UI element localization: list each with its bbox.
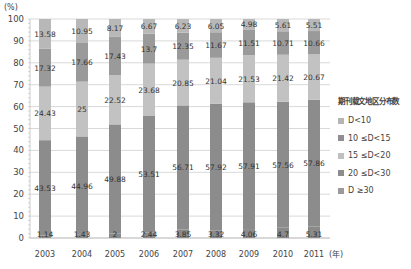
data-label: 3.85: [175, 230, 192, 239]
y-tick-label: 80: [13, 58, 24, 68]
data-label: 57.91: [238, 162, 260, 171]
x-tick-label: 2006: [139, 250, 159, 259]
data-label: 4.06: [241, 230, 258, 239]
data-label: 56.71: [172, 163, 194, 172]
data-label: 17.66: [71, 58, 93, 67]
data-label: 49.88: [104, 175, 126, 184]
legend-title: 期刊载文地区分布数: [338, 95, 399, 106]
data-label: 13.58: [34, 30, 56, 39]
x-tick-label: 2010: [273, 250, 293, 259]
y-tick-label: 30: [13, 167, 24, 177]
legend-swatch: [338, 118, 344, 124]
data-label: 24.43: [34, 109, 56, 118]
data-label: 4.7: [277, 230, 289, 239]
data-label: 6.23: [175, 22, 192, 31]
data-label: 4.98: [241, 20, 258, 29]
y-tick-label: 60: [13, 102, 24, 112]
data-label: 21.42: [272, 74, 294, 83]
data-label: 10.95: [71, 27, 93, 36]
data-label: 5.51: [306, 21, 323, 30]
y-tick-label: 70: [13, 80, 24, 90]
legend-item-15-20: 15 ≤D<20: [338, 147, 399, 165]
data-label: 21.53: [238, 75, 260, 84]
data-label: 17.32: [34, 64, 56, 73]
data-label: 1.14: [37, 230, 54, 239]
y-tick-label: 90: [13, 36, 24, 46]
x-tick-label: 2009: [239, 250, 259, 259]
data-label: 44.96: [71, 182, 93, 191]
legend-item-20-30: 20 ≤D<30: [338, 165, 399, 183]
data-label: 22.52: [104, 96, 126, 105]
legend-item-d-lt-10: D<10: [338, 112, 399, 130]
data-label: 6.05: [208, 22, 225, 31]
data-label: 2.44: [141, 230, 158, 239]
data-label: 6.67: [141, 22, 158, 31]
legend-swatch: [338, 135, 344, 141]
x-tick-label: 2011: [304, 250, 324, 259]
data-label: 23.68: [138, 86, 160, 95]
y-tick-label: 100: [8, 14, 24, 24]
data-label: 53.51: [138, 170, 160, 179]
legend-swatch: [338, 153, 344, 159]
x-tick-label: 2004: [72, 250, 92, 259]
legend-item-d-ge-30: D ≥30: [338, 182, 399, 200]
y-tick-label: 20: [13, 189, 24, 199]
data-label: 1.43: [74, 230, 91, 239]
data-label: 11.51: [238, 39, 260, 48]
data-label: 5.31: [306, 230, 323, 239]
data-label: 57.56: [272, 161, 294, 170]
legend-swatch: [338, 170, 344, 176]
data-label: 12.35: [172, 42, 194, 51]
y-tick-label: 0: [19, 233, 24, 243]
legend-item-10-15: 10 ≤D<15: [338, 130, 399, 148]
data-label: 43.53: [34, 184, 56, 193]
x-tick-label: 2005: [105, 250, 125, 259]
data-label: 17.43: [104, 52, 126, 61]
data-label: 57.86: [303, 159, 325, 168]
y-unit-label: (%): [4, 3, 18, 12]
data-label: 10.71: [272, 39, 294, 48]
data-label: 8.17: [107, 24, 124, 33]
data-label: 57.92: [205, 163, 227, 172]
y-tick-label: 50: [13, 124, 24, 134]
data-label: 13.7: [141, 45, 158, 54]
data-label: 10.66: [303, 39, 325, 48]
data-label: 25: [77, 105, 87, 114]
legend-swatch: [338, 188, 344, 194]
data-label: 20.67: [303, 73, 325, 82]
y-tick-label: 10: [13, 211, 24, 221]
x-tick-label: 2007: [173, 250, 193, 259]
y-tick-label: 40: [13, 145, 24, 155]
x-tick-label: 2003: [35, 250, 55, 259]
legend: 期刊载文地区分布数 D<10 10 ≤D<15 15 ≤D<20 20 ≤D<3…: [338, 95, 399, 200]
data-label: 5.61: [275, 21, 292, 30]
x-tick-label: 2008: [206, 250, 226, 259]
data-label: 3.32: [208, 230, 225, 239]
data-label: 11.67: [205, 41, 227, 50]
data-label: 2: [113, 230, 118, 239]
data-label: 21.04: [205, 77, 227, 86]
x-unit-label: (年): [329, 249, 343, 259]
data-label: 20.85: [172, 79, 194, 88]
